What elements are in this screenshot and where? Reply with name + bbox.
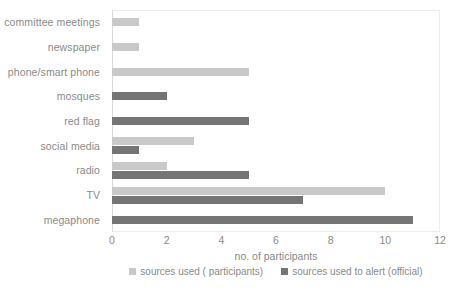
legend-label: sources used ( participants) — [140, 266, 263, 277]
x-tick-label: 10 — [379, 234, 391, 246]
bar-official — [112, 146, 139, 154]
bar-group — [112, 10, 440, 35]
legend-swatch-icon — [129, 268, 136, 275]
chart-legend: sources used ( participants) sources use… — [112, 266, 440, 277]
category-label: mosques — [0, 84, 106, 109]
bar-group — [112, 84, 440, 109]
bar-group — [112, 183, 440, 208]
bar-group — [112, 109, 440, 134]
bar-official — [112, 216, 413, 224]
category-label: phone/smart phone — [0, 59, 106, 84]
x-axis-title: no. of participants — [112, 250, 440, 262]
x-tick-label: 12 — [434, 234, 446, 246]
bar-chart: committee meetings newspaper phone/smart… — [0, 0, 460, 296]
category-label: megaphone — [0, 207, 106, 232]
x-axis-ticks: 0 2 4 6 8 10 12 — [112, 234, 440, 250]
legend-item-official: sources used to alert (official) — [281, 266, 422, 277]
bar-participants — [112, 137, 194, 145]
category-label: red flag — [0, 109, 106, 134]
bar-official — [112, 171, 249, 179]
bar-participants — [112, 68, 249, 76]
legend-item-participants: sources used ( participants) — [129, 266, 263, 277]
x-tick-label: 8 — [328, 234, 334, 246]
x-tick-label: 6 — [273, 234, 279, 246]
bar-group — [112, 133, 440, 158]
bar-group — [112, 158, 440, 183]
bars-container — [112, 10, 440, 232]
bar-participants — [112, 162, 167, 170]
category-axis-labels: committee meetings newspaper phone/smart… — [0, 10, 106, 232]
bar-participants — [112, 43, 139, 51]
category-label: TV — [0, 183, 106, 208]
x-tick-label: 2 — [164, 234, 170, 246]
bar-group — [112, 207, 440, 232]
bar-group — [112, 35, 440, 60]
bar-official — [112, 117, 249, 125]
bar-participants — [112, 187, 385, 195]
bar-official — [112, 92, 167, 100]
legend-swatch-icon — [281, 268, 288, 275]
bar-group — [112, 59, 440, 84]
category-label: radio — [0, 158, 106, 183]
x-tick-label: 0 — [109, 234, 115, 246]
bar-participants — [112, 18, 139, 26]
x-tick-label: 4 — [218, 234, 224, 246]
category-label: committee meetings — [0, 10, 106, 35]
legend-label: sources used to alert (official) — [292, 266, 422, 277]
category-label: newspaper — [0, 35, 106, 60]
category-label: social media — [0, 133, 106, 158]
bar-official — [112, 196, 303, 204]
